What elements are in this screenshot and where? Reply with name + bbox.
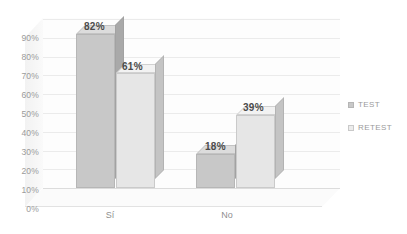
legend-label-retest: RETEST <box>358 123 392 132</box>
data-label-retest-si: 61% <box>122 61 143 72</box>
plot-floor-front-edge <box>25 206 322 207</box>
bar-retest-si[interactable] <box>116 73 155 188</box>
legend-swatch-icon-test <box>348 102 354 108</box>
bar-test-si[interactable] <box>76 34 115 188</box>
y-tick-0: 0% <box>5 204 39 214</box>
y-tick-70: 70% <box>5 71 39 81</box>
legend-item-retest[interactable]: RETEST <box>348 123 392 132</box>
data-label-retest-no: 39% <box>243 102 264 113</box>
data-label-test-no: 18% <box>205 141 226 152</box>
gridline-90 <box>43 19 340 20</box>
bar-side-face <box>275 97 284 179</box>
bar-front-face <box>116 73 155 188</box>
y-tick-80: 80% <box>5 52 39 62</box>
plot-floor <box>25 188 340 207</box>
legend-swatch-icon-retest <box>348 125 354 131</box>
bar-front-face <box>236 115 275 188</box>
x-tick-si: Sí <box>85 210 135 220</box>
y-tick-30: 30% <box>5 147 39 157</box>
bar-front-face <box>196 154 235 188</box>
y-tick-10: 10% <box>5 185 39 195</box>
bar-front-face <box>76 34 115 188</box>
bar-side-face <box>155 55 164 179</box>
bar-test-no[interactable] <box>196 154 235 188</box>
y-tick-40: 40% <box>5 128 39 138</box>
y-tick-50: 50% <box>5 109 39 119</box>
bar-retest-no[interactable] <box>236 115 275 188</box>
x-tick-no: No <box>202 210 252 220</box>
gridline-0 <box>43 188 340 189</box>
legend-item-test[interactable]: TEST <box>348 100 392 109</box>
data-label-test-si: 82% <box>84 21 105 32</box>
chart-plot-area: 82% 61% 18% 39% <box>0 0 407 234</box>
y-tick-90: 90% <box>5 33 39 43</box>
y-tick-60: 60% <box>5 90 39 100</box>
legend-label-test: TEST <box>358 100 380 109</box>
chart-container: 82% 61% 18% 39% 90% 80% 70% 60% 50% 40% … <box>0 0 407 234</box>
y-tick-20: 20% <box>5 166 39 176</box>
chart-legend: TEST RETEST <box>348 100 392 146</box>
